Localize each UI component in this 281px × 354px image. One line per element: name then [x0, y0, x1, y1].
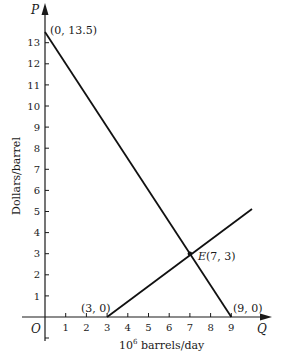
- chart: 1 2 3 4 5 6 7 8 9 1 2 3 4 5 6 7 8 9 10 1…: [0, 0, 281, 354]
- x-tick-label: 7: [187, 322, 193, 333]
- y-tick-label: 13: [27, 37, 40, 48]
- x-tick-label: 5: [145, 322, 151, 333]
- y-tick-label: 1: [34, 291, 40, 302]
- x-tick-label: 3: [104, 322, 110, 333]
- x-tick-label: 1: [63, 322, 69, 333]
- annotation-demand-end: (9, 0): [233, 302, 263, 315]
- annotation-demand-top: (0, 13.5): [50, 24, 97, 37]
- y-tick-label: 3: [34, 248, 40, 259]
- y-tick-label: 5: [34, 206, 40, 217]
- annotation-equilibrium: E(7, 3): [197, 250, 236, 263]
- demand-line: [45, 32, 231, 317]
- x-tick-label: 4: [125, 322, 131, 333]
- x-tick-label: 2: [83, 322, 89, 333]
- x-tick-label: 6: [166, 322, 172, 333]
- y-tick-label: 10: [27, 101, 40, 112]
- x-tick-label: 8: [207, 322, 213, 333]
- x-axis-label-base: 10: [119, 339, 133, 352]
- y-tick-label: 11: [27, 80, 40, 91]
- x-axis-symbol: Q: [257, 322, 267, 336]
- x-tick-label: 9: [228, 322, 234, 333]
- y-tick-label: 12: [27, 58, 40, 69]
- y-axis-symbol: P: [30, 3, 40, 17]
- x-axis-label: 106 barrels/day: [119, 338, 205, 352]
- origin-label: O: [31, 322, 41, 336]
- y-axis-label: Dollars/barrel: [10, 137, 23, 215]
- y-tick-label: 7: [34, 164, 40, 175]
- x-axis-label-rest: barrels/day: [137, 339, 205, 352]
- y-axis-arrow-icon: [42, 3, 49, 15]
- annotation-equilibrium-coords: (7, 3): [206, 250, 236, 263]
- supply-line: [107, 209, 252, 317]
- y-tick-label: 9: [34, 122, 40, 133]
- annotation-supply-start: (3, 0): [81, 302, 111, 315]
- equilibrium-point: [188, 251, 193, 256]
- y-tick-label: 4: [34, 227, 40, 238]
- y-tick-label: 6: [34, 185, 40, 196]
- y-tick-label: 2: [34, 269, 40, 280]
- y-tick-label: 8: [34, 143, 40, 154]
- y-tick-labels: 1 2 3 4 5 6 7 8 9 10 11 12 13: [27, 37, 40, 301]
- x-tick-labels: 1 2 3 4 5 6 7 8 9: [63, 322, 235, 333]
